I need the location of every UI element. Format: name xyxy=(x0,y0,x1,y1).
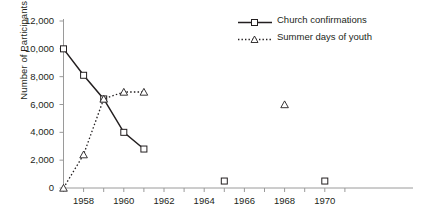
legend-item-summer-days-of-youth: Summer days of youth xyxy=(238,29,372,44)
data-point-marker xyxy=(281,101,289,108)
chart-legend: Church confirmations Summer days of yout… xyxy=(238,12,372,46)
data-point-marker xyxy=(80,151,88,158)
data-point-marker xyxy=(140,88,148,95)
square-marker-solid-line-icon xyxy=(238,14,272,25)
data-point-marker xyxy=(141,146,147,152)
legend-label: Church confirmations xyxy=(277,14,367,25)
data-point-marker xyxy=(120,88,128,95)
cropped-caption xyxy=(0,216,424,224)
data-series-group xyxy=(60,46,328,191)
data-point-marker xyxy=(221,178,227,184)
data-point-marker xyxy=(81,72,87,78)
data-point-marker xyxy=(121,129,127,135)
data-point-marker xyxy=(61,46,67,52)
triangle-marker-dotted-line-icon xyxy=(238,31,272,42)
legend-item-church-confirmations: Church confirmations xyxy=(238,12,372,27)
data-point-marker xyxy=(322,178,328,184)
legend-label: Summer days of youth xyxy=(277,31,372,42)
chart-container: Number of Participants in Estonia 02,000… xyxy=(0,0,424,224)
